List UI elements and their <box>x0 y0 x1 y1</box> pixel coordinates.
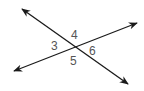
angle-label-3: 3 <box>51 40 58 52</box>
angle-label-6: 6 <box>89 45 96 57</box>
angle-label-5: 5 <box>70 55 77 67</box>
diagram-canvas <box>0 0 144 91</box>
angle-label-4: 4 <box>71 29 78 41</box>
